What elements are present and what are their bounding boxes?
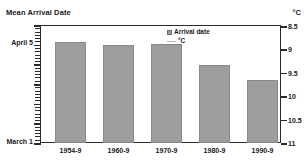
legend-label-celsius: °C <box>178 37 185 45</box>
legend-line-icon <box>167 39 176 44</box>
x-axis-labels: 1954-91960-91970-91980-91990-9 <box>41 147 280 163</box>
left-axis-labels: April 5March 1 <box>0 0 33 166</box>
x-axis-tick-label: 1990-9 <box>252 147 274 154</box>
right-axis-tick <box>281 96 287 98</box>
right-axis-tick <box>281 49 287 51</box>
right-axis-tick-label: 9.5 <box>288 69 298 76</box>
chart-container: Mean Arrival Date °C April 5March 1 8.59… <box>0 0 307 166</box>
right-axis-labels: 8.599.51010.511 <box>288 0 307 166</box>
legend-square-icon <box>167 30 172 35</box>
right-axis-tick <box>281 26 287 28</box>
right-axis-tick <box>281 143 287 145</box>
left-axis-tick-label: April 5 <box>11 39 33 46</box>
bar <box>247 80 278 143</box>
bar <box>103 45 134 143</box>
x-axis-tick-label: 1980-9 <box>204 147 226 154</box>
legend-label-arrival-date: Arrival date <box>174 28 210 36</box>
bar <box>151 44 182 143</box>
right-axis-ticks <box>281 25 288 143</box>
left-axis-tick-label: March 1 <box>7 138 33 145</box>
legend-item-arrival-date: Arrival date <box>167 28 237 36</box>
bars-layer <box>41 26 280 143</box>
right-axis-tick-label: 10 <box>288 93 296 100</box>
right-axis-tick <box>281 73 287 75</box>
right-axis-tick-label: 8.5 <box>288 23 298 30</box>
right-axis-tick <box>281 120 287 122</box>
x-axis-tick-label: 1954-9 <box>60 147 82 154</box>
left-axis-tick <box>34 143 41 145</box>
right-axis-tick-label: 11 <box>288 140 295 147</box>
x-axis-tick-label: 1970-9 <box>156 147 178 154</box>
chart-legend: Arrival date °C <box>167 28 237 46</box>
right-axis-tick-label: 10.5 <box>288 116 302 123</box>
x-axis-tick-label: 1960-9 <box>108 147 130 154</box>
bar <box>55 42 86 143</box>
right-axis-tick-label: 9 <box>288 46 292 53</box>
bar <box>199 65 230 143</box>
legend-item-celsius: °C <box>167 37 237 45</box>
